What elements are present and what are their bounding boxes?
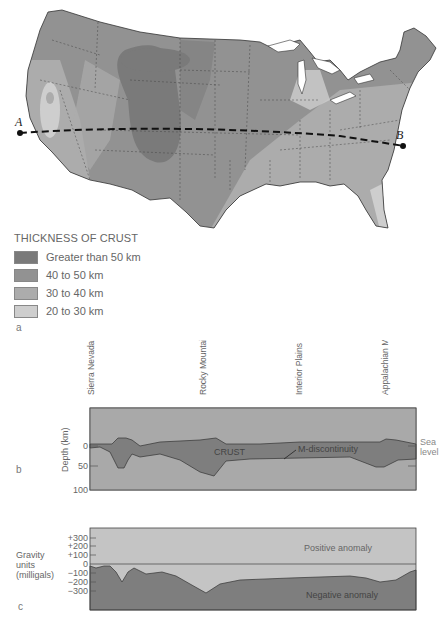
gravity-anomaly-chart: +300 +200 +100 0 −100 −200 −300 Gravity … [0, 510, 444, 625]
region-label-sierra-nevada: Sierra Nevada [86, 340, 96, 395]
legend-item-gt50: Greater than 50 km [14, 250, 141, 264]
point-b-marker [400, 143, 406, 149]
svg-text:(milligals): (milligals) [16, 570, 54, 580]
point-a-label: A [15, 115, 22, 130]
legend-label: Greater than 50 km [46, 251, 141, 263]
y-tick-50: 50 [78, 461, 88, 471]
legend-item-20-30: 20 to 30 km [14, 304, 103, 318]
moho-label: M-discontinuity [298, 444, 359, 454]
svg-text:level: level [420, 447, 439, 457]
legend-swatch [14, 305, 38, 318]
point-b-label: B [396, 128, 403, 143]
crust-label: CRUST [214, 447, 246, 457]
region-label-appalachian-mountains: Appalachian Mountains [380, 340, 390, 395]
point-a-marker [17, 130, 23, 136]
crust-thickness-map [0, 0, 444, 230]
svg-text:units: units [16, 560, 36, 570]
panel-label-a: a [16, 322, 22, 333]
panel-label-b: b [16, 464, 22, 475]
panel-label-c: c [18, 601, 23, 612]
legend-label: 40 to 50 km [46, 269, 103, 281]
legend-item-40-50: 40 to 50 km [14, 268, 103, 282]
legend-label: 30 to 40 km [46, 287, 103, 299]
crust-profile-chart: Sierra Nevada Rocky Mountains Interior P… [0, 340, 444, 500]
negative-anomaly-label: Negative anomaly [306, 590, 379, 600]
legend-swatch [14, 269, 38, 282]
legend-swatch [14, 251, 38, 264]
legend-item-30-40: 30 to 40 km [14, 286, 103, 300]
legend-title: THICKNESS OF CRUST [14, 232, 138, 244]
y-axis-label: Gravity [16, 550, 45, 560]
positive-anomaly-label: Positive anomaly [304, 543, 373, 553]
svg-text:−300: −300 [68, 586, 88, 596]
legend-swatch [14, 287, 38, 300]
region-label-rocky-mountains: Rocky Mountains [198, 340, 208, 395]
y-tick-0: 0 [83, 441, 88, 451]
y-tick-100: 100 [73, 485, 88, 495]
region-label-interior-plains: Interior Plains [294, 343, 304, 395]
legend-label: 20 to 30 km [46, 305, 103, 317]
y-axis-label: Depth (km) [60, 427, 70, 472]
sea-level-label: Sea [420, 437, 436, 447]
